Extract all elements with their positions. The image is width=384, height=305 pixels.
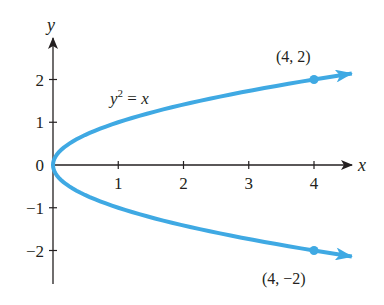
axes: x y — [45, 15, 366, 284]
y-tick-label: 2 — [36, 71, 45, 90]
curve-arrow-top — [314, 74, 352, 80]
point-4-2 — [310, 75, 319, 84]
y-tick-label: −1 — [26, 199, 44, 218]
curve-arrow-bottom — [314, 251, 352, 257]
y-tick-label: 0 — [36, 156, 45, 175]
parabola-chart: x y 1234 210−1−2 y2 = x (4, 2) (4, −2) — [0, 0, 384, 305]
x-tick-label: 2 — [179, 174, 188, 193]
point-label-4-neg2: (4, −2) — [262, 270, 306, 288]
x-ticks: 1234 — [114, 161, 319, 193]
point-4-neg2 — [310, 246, 319, 255]
y-axis-label: y — [45, 15, 55, 35]
x-tick-label: 4 — [310, 174, 319, 193]
y-tick-label: −2 — [26, 242, 44, 261]
y-tick-label: 1 — [36, 113, 45, 132]
x-tick-label: 3 — [245, 174, 254, 193]
x-tick-label: 1 — [114, 174, 123, 193]
x-axis-label: x — [357, 155, 366, 175]
equation-label: y2 = x — [108, 87, 149, 108]
point-label-4-2: (4, 2) — [276, 48, 311, 66]
